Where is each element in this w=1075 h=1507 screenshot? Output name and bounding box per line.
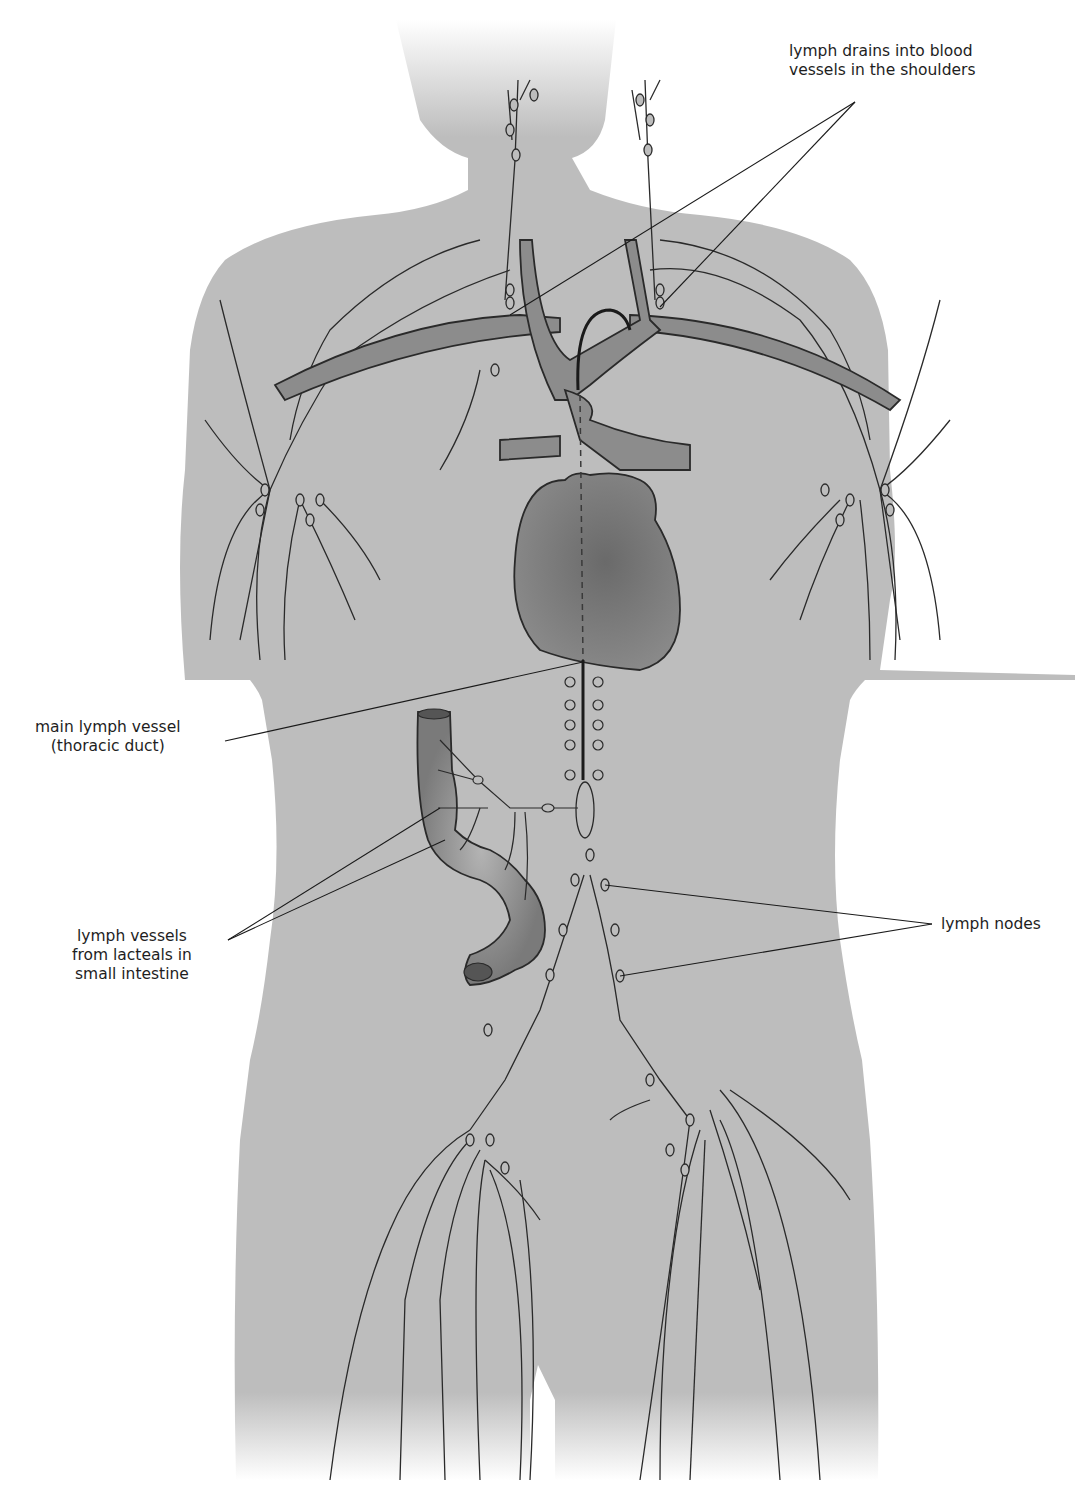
label-lacteals-line3: small intestine (72, 965, 192, 984)
label-lymph-nodes-line1: lymph nodes (941, 915, 1041, 934)
label-lacteals-line2: from lacteals in (72, 946, 192, 965)
body-silhouette (180, 20, 1075, 1480)
label-lacteals-line1: lymph vessels (72, 927, 192, 946)
label-shoulders: lymph drains into blood vessels in the s… (789, 42, 975, 80)
heart (514, 473, 680, 670)
cisterna-chyli (576, 782, 594, 838)
label-thoracic-duct: main lymph vessel (thoracic duct) (35, 718, 181, 756)
label-thoracic-duct-line1: main lymph vessel (35, 718, 181, 737)
label-lymph-nodes: lymph nodes (941, 915, 1041, 934)
label-shoulders-line1: lymph drains into blood (789, 42, 975, 61)
label-lacteals: lymph vessels from lacteals in small int… (72, 927, 192, 984)
intestine-opening-top (418, 709, 450, 719)
label-thoracic-duct-line2: (thoracic duct) (35, 737, 181, 756)
intestine-opening-bottom (464, 963, 492, 981)
label-shoulders-line2: vessels in the shoulders (789, 61, 975, 80)
